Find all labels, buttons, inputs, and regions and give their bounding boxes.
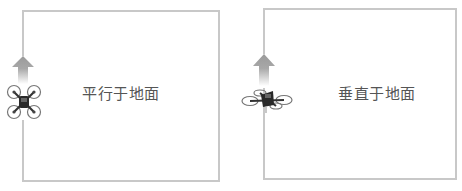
drone-side-view-icon (240, 85, 294, 113)
orientation-label-vertical: 垂直于地面 (338, 82, 416, 103)
up-arrow-icon (11, 55, 35, 85)
up-arrow-icon (252, 53, 276, 87)
panel-parallel: 平行于地面 (0, 0, 231, 191)
orientation-label-parallel: 平行于地面 (82, 82, 160, 103)
drone-top-view-icon (6, 84, 42, 120)
panel-vertical: 垂直于地面 (231, 0, 462, 191)
